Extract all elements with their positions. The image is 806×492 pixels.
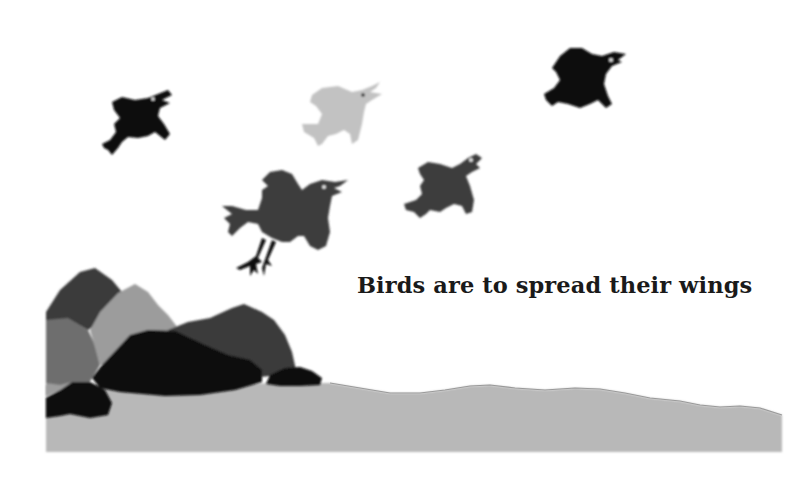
bird-black-right xyxy=(544,48,626,108)
caption-text: Birds are to spread their wings xyxy=(357,272,752,298)
bird-eye xyxy=(609,58,613,62)
bird-dark-large xyxy=(222,170,348,276)
bird-black-left xyxy=(102,90,172,155)
bird-body xyxy=(302,82,382,146)
bird-eye xyxy=(469,158,473,162)
birds xyxy=(102,48,626,276)
bird-light-center xyxy=(302,82,382,146)
bird-eye xyxy=(322,185,326,189)
bird-body xyxy=(404,154,482,218)
bird-dark-small xyxy=(404,154,482,218)
bird-body xyxy=(222,170,348,250)
bird-legs xyxy=(236,238,276,276)
bird-body xyxy=(544,48,626,108)
bird-body xyxy=(102,90,172,155)
illustration-scene xyxy=(0,0,806,492)
bird-eye xyxy=(151,97,154,100)
bird-eye xyxy=(361,93,365,97)
